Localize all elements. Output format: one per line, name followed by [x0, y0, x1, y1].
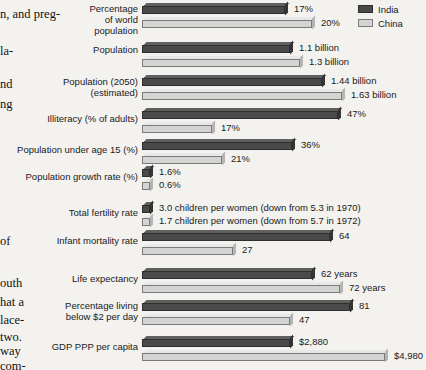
bar-end-cap — [212, 121, 215, 135]
bar-india — [142, 336, 294, 347]
bar-india — [142, 166, 154, 177]
bar-value-label: 21% — [231, 153, 250, 164]
legend-item-china: China — [358, 17, 424, 29]
bar-end-cap — [290, 41, 293, 55]
bar-end-cap — [290, 313, 293, 327]
legend-label: India — [378, 4, 399, 15]
bar-value-label: 17% — [221, 122, 240, 133]
category-label: Percentage living below $2 per day — [65, 300, 138, 322]
bar-value-label: 20% — [321, 17, 340, 28]
bar-china — [142, 215, 154, 226]
bar-end-cap — [222, 152, 225, 166]
bar-body — [142, 169, 150, 177]
bar-value-label: $4,980 — [394, 350, 423, 361]
bar-end-cap — [322, 74, 325, 88]
bar-body — [142, 205, 150, 213]
bar-end-cap — [290, 335, 293, 349]
bar-end-cap — [350, 299, 353, 313]
bar-body — [142, 271, 312, 279]
bar-end-cap — [150, 214, 153, 228]
bar-china — [142, 282, 344, 293]
category-label: Illiteracy (% of adults) — [47, 113, 138, 124]
bar-body — [142, 218, 150, 226]
bar-india — [142, 268, 316, 279]
bar-value-label: 3.0 children per women (down from 5.3 in… — [159, 202, 361, 213]
legend-item-india: India — [358, 3, 424, 15]
bar-india — [142, 230, 334, 241]
bar-india — [142, 108, 342, 119]
category-label: Total fertility rate — [69, 207, 138, 218]
category-label: Life expectancy — [72, 273, 138, 284]
bar-body — [142, 182, 150, 190]
bar-china — [142, 314, 294, 325]
bar-china — [142, 179, 154, 190]
bar-body — [142, 92, 342, 100]
bar-value-label: 1.44 billion — [331, 75, 376, 86]
bar-body — [142, 353, 385, 361]
bar-body — [142, 303, 350, 311]
chart-legend: IndiaChina — [358, 3, 424, 31]
legend-swatch-icon — [358, 5, 373, 13]
bar-india — [142, 75, 326, 86]
bar-india — [142, 300, 354, 311]
bar-value-label: 0.6% — [159, 179, 181, 190]
category-label: Population (2050) (estimated) — [63, 76, 138, 98]
legend-label: China — [378, 18, 403, 29]
bar-body — [142, 233, 330, 241]
bar-india — [142, 202, 154, 213]
bar-china — [142, 17, 316, 28]
category-label: Population — [93, 44, 138, 55]
bar-body — [142, 20, 312, 28]
bar-body — [142, 125, 212, 133]
bar-china — [142, 89, 346, 100]
bar-body — [142, 339, 290, 347]
bar-body — [142, 78, 322, 86]
bar-end-cap — [338, 107, 341, 121]
bar-china — [142, 153, 226, 164]
bar-china — [142, 122, 216, 133]
bar-end-cap — [312, 16, 315, 30]
category-label: Population growth rate (%) — [26, 171, 138, 182]
bar-value-label: 1.63 billion — [351, 89, 396, 100]
bar-value-label: 27 — [242, 244, 253, 255]
bar-body — [142, 59, 300, 67]
bar-china — [142, 56, 304, 67]
legend-swatch-icon — [358, 19, 373, 27]
bar-body — [142, 317, 290, 325]
bar-value-label: 1.6% — [159, 166, 181, 177]
bar-value-label: 17% — [294, 3, 313, 14]
bar-end-cap — [233, 243, 236, 257]
category-label: GDP PPP per capita — [52, 341, 138, 352]
bar-value-label: 64 — [339, 230, 350, 241]
bar-end-cap — [330, 229, 333, 243]
bar-end-cap — [150, 178, 153, 192]
bar-india — [142, 139, 296, 150]
bar-body — [142, 156, 222, 164]
bar-body — [142, 111, 338, 119]
bar-india — [142, 3, 289, 14]
bar-end-cap — [312, 267, 315, 281]
bar-end-cap — [342, 88, 345, 102]
bar-end-cap — [340, 281, 343, 295]
bar-china — [142, 350, 389, 361]
bar-value-label: 81 — [359, 300, 370, 311]
bar-body — [142, 6, 285, 14]
bar-body — [142, 247, 233, 255]
bar-value-label: $2,880 — [299, 336, 328, 347]
comparison-bar-chart: Percentage of world population17%20%Popu… — [0, 0, 426, 370]
bar-end-cap — [292, 138, 295, 152]
bar-value-label: 47% — [347, 108, 366, 119]
category-label: Population under age 15 (%) — [17, 144, 138, 155]
bar-value-label: 62 years — [321, 268, 357, 279]
bar-body — [142, 142, 292, 150]
bar-end-cap — [300, 55, 303, 69]
bar-india — [142, 42, 294, 53]
bar-china — [142, 244, 237, 255]
bar-body — [142, 285, 340, 293]
bar-value-label: 36% — [301, 139, 320, 150]
bar-body — [142, 45, 290, 53]
bar-end-cap — [385, 349, 388, 363]
bar-value-label: 72 years — [349, 282, 385, 293]
bar-value-label: 1.3 billion — [309, 56, 349, 67]
category-label: Infant mortality rate — [57, 235, 138, 246]
